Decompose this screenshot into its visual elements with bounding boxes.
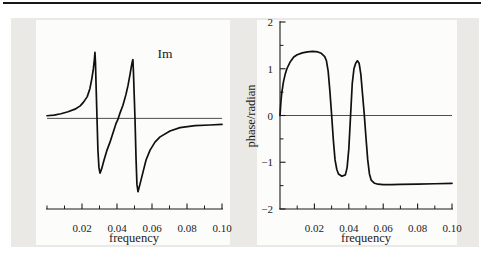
data-curve [47, 52, 222, 191]
y-tick-label: −1 [261, 156, 273, 168]
top-rule [3, 2, 481, 4]
phase-plot-ylabel: phase/radian [243, 61, 259, 171]
y-tick-label: 2 [268, 16, 274, 28]
im-plot: 0.020.040.060.080.10 Im frequency [36, 18, 230, 247]
phase-plot-canvas: 0.020.040.060.080.10−2−1012 [240, 18, 457, 247]
im-plot-title: Im [135, 47, 195, 61]
y-tick-label: 0 [268, 110, 274, 122]
y-tick-label: 1 [268, 63, 274, 75]
y-tick-label: −2 [261, 203, 273, 215]
im-plot-canvas: 0.020.040.060.080.10 [36, 18, 230, 247]
data-curve [280, 51, 452, 184]
phase-plot-xlabel: frequency [279, 231, 453, 245]
im-plot-xlabel: frequency [42, 231, 226, 245]
phase-plot: 0.020.040.060.080.10−2−1012 phase/radian… [240, 18, 457, 247]
page: 0.020.040.060.080.10 Im frequency 0.020.… [0, 0, 491, 265]
